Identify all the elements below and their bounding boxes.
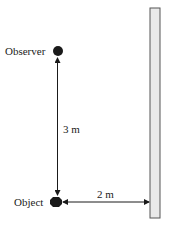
- mirror: [150, 8, 160, 218]
- mirror-diagram: Observer 3 m Object 2 m: [0, 0, 179, 231]
- observer-label: Observer: [5, 45, 46, 57]
- object-marker: [50, 197, 62, 207]
- object-label: Object: [14, 196, 43, 208]
- vertical-distance-label: 3 m: [63, 123, 80, 135]
- observer-dot: [53, 46, 63, 56]
- horizontal-distance-label: 2 m: [97, 188, 114, 200]
